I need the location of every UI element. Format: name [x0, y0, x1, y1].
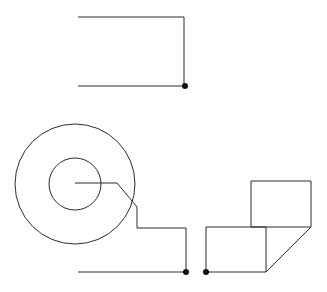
vertex-marker-top-right — [182, 83, 188, 89]
drawing-canvas — [0, 0, 327, 292]
vertex-marker-bottom-right — [203, 269, 209, 275]
vertex-marker-bottom-center — [183, 269, 189, 275]
canvas-background — [0, 0, 327, 292]
line-drawing-svg — [0, 0, 327, 292]
